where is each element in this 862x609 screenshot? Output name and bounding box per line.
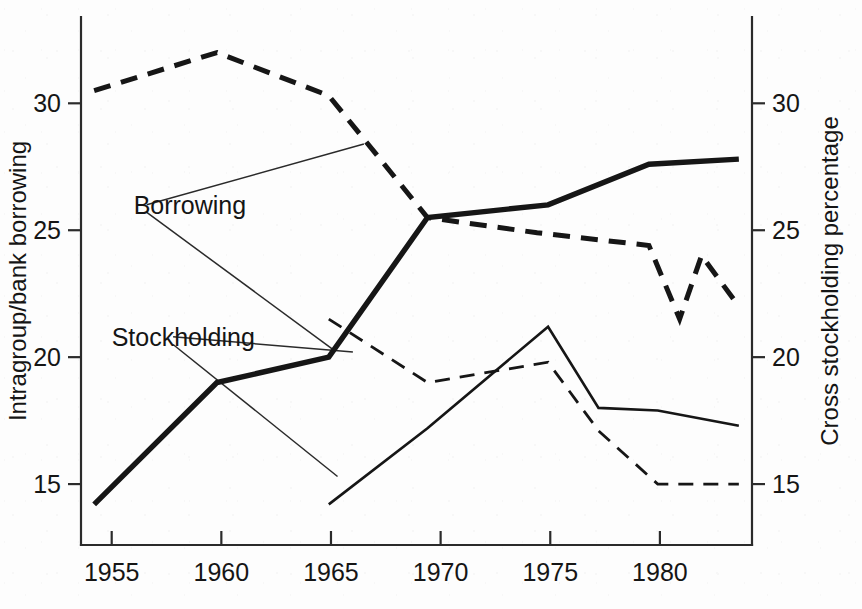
right-axis-title: Cross stockholding percentage bbox=[816, 116, 843, 446]
bottom-tick-label: 1965 bbox=[303, 558, 359, 586]
right-tick-label: 20 bbox=[772, 343, 800, 371]
left-axis-ticks: 15202530 bbox=[33, 89, 81, 498]
left-tick-label: 20 bbox=[33, 343, 61, 371]
series-annotations: BorrowingStockholding bbox=[112, 191, 255, 351]
right-tick-label: 15 bbox=[772, 470, 800, 498]
left-tick-label: 30 bbox=[33, 89, 61, 117]
bottom-tick-label: 1980 bbox=[632, 558, 688, 586]
series-path bbox=[329, 327, 739, 505]
bottom-tick-label: 1955 bbox=[84, 558, 140, 586]
series-path bbox=[329, 319, 739, 484]
line-chart-figure: 15202530 15202530 1955196019651970197519… bbox=[0, 0, 862, 609]
annotation-leader-line bbox=[173, 344, 337, 476]
left-tick-label: 15 bbox=[33, 470, 61, 498]
chart-container: 15202530 15202530 1955196019651970197519… bbox=[0, 0, 862, 609]
bottom-axis-ticks: 195519601965197019751980 bbox=[84, 531, 688, 586]
series-annotation-label: Borrowing bbox=[134, 191, 247, 219]
right-tick-label: 30 bbox=[772, 89, 800, 117]
axes-group bbox=[81, 17, 752, 545]
bottom-tick-label: 1960 bbox=[194, 558, 250, 586]
right-axis-ticks: 15202530 bbox=[752, 89, 800, 498]
right-tick-label: 25 bbox=[772, 216, 800, 244]
bottom-tick-label: 1975 bbox=[522, 558, 578, 586]
bottom-tick-label: 1970 bbox=[413, 558, 469, 586]
series-annotation-label: Stockholding bbox=[112, 323, 255, 351]
left-tick-label: 25 bbox=[33, 216, 61, 244]
data-series-group bbox=[94, 53, 739, 505]
series-path bbox=[94, 53, 739, 320]
left-axis-title: Intragroup/bank borrowing bbox=[4, 141, 31, 421]
